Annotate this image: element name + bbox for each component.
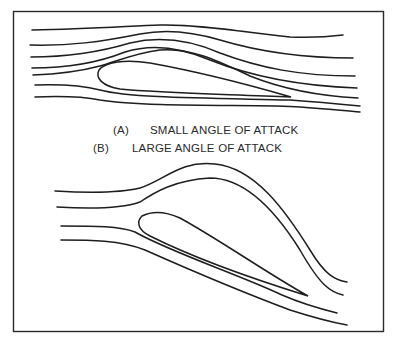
caption-a-text: SMALL ANGLE OF ATTACK: [150, 124, 298, 136]
caption-b-text: LARGE ANGLE OF ATTACK: [132, 142, 282, 154]
large-angle-streamlines: [55, 163, 347, 325]
small-angle-streamlines: [30, 25, 360, 112]
caption-a-tag: (A): [113, 124, 129, 136]
figure-frame: [14, 12, 384, 332]
caption-b-tag: (B): [93, 142, 109, 154]
airfoil-flow-diagram: [0, 0, 395, 337]
